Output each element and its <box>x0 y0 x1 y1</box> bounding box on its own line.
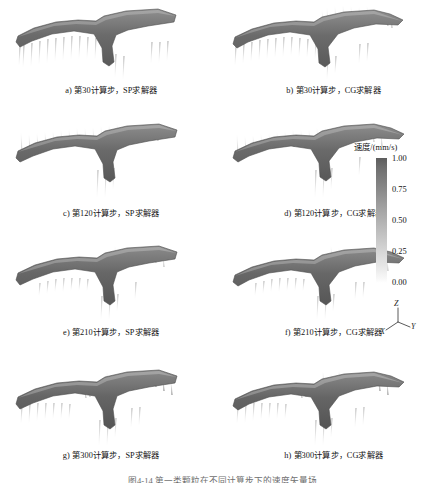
panel-c-render <box>8 116 180 200</box>
figure-container: a) 第30计算步，SP求解器 <box>0 0 445 483</box>
colorbar-tick-5: 0.00 <box>392 278 407 287</box>
panel-b-render <box>228 4 408 84</box>
panel-g <box>8 364 180 448</box>
axis-triad: Z Y X <box>376 296 422 336</box>
axis-label-z: Z <box>394 299 399 308</box>
figure-title: 图4-14 第一类颗粒在不同计算步下的速度矢量场 <box>0 474 445 483</box>
panel-h-render <box>228 364 408 448</box>
panel-a-caption: a) 第30计算步，SP求解器 <box>0 86 222 96</box>
panel-c-caption: c) 第120计算步，SP求解器 <box>0 209 222 219</box>
panel-e-caption: e) 第210计算步，SP求解器 <box>0 328 222 338</box>
colorbar-title: 速度/(mm/s) <box>354 140 397 152</box>
panel-g-render <box>8 364 180 448</box>
colorbar-tick-3: 0.50 <box>392 216 407 225</box>
panel-b <box>228 4 408 84</box>
panel-a-render <box>8 4 180 84</box>
panel-g-caption: g) 第300计算步，SP求解器 <box>0 451 222 461</box>
panel-h <box>228 364 408 448</box>
panel-c <box>8 116 180 200</box>
colorbar-tick-2: 0.75 <box>392 185 407 194</box>
panel-h-caption: h) 第300计算步，CG求解器 <box>222 451 445 461</box>
colorbar-ticks: 1.00 0.75 0.50 0.25 0.00 <box>392 158 442 283</box>
colorbar: 速度/(mm/s) 1.00 0.75 0.50 0.25 0.00 <box>352 140 444 290</box>
axis-label-x: X <box>379 327 386 336</box>
panel-b-caption: b) 第30计算步，CG求解器 <box>222 86 445 96</box>
colorbar-tick-1: 1.00 <box>392 154 407 163</box>
panel-e-render <box>8 240 180 324</box>
panel-a <box>8 4 180 84</box>
colorbar-tick-4: 0.25 <box>392 247 407 256</box>
colorbar-gradient <box>376 158 387 283</box>
axis-label-y: Y <box>411 322 417 331</box>
panel-e <box>8 240 180 324</box>
